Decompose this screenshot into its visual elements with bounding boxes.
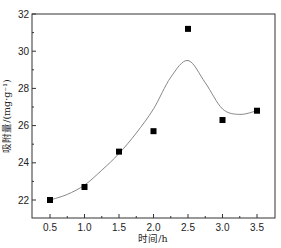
x-tick-label: 2.5 [181,222,195,233]
y-axis-title: 吸附量/(mg·g⁻¹) [1,79,12,153]
y-tick-label: 28 [18,83,30,94]
x-tick-label: 0.5 [43,222,57,233]
y-tick-label: 30 [18,46,30,57]
x-tick-label: 2.0 [147,222,161,233]
chart: 0.51.01.52.02.53.03.5 222426283032 时间/h … [0,0,281,248]
data-point-marker [185,26,191,32]
data-point-marker [47,197,53,203]
y-tick-label: 24 [18,157,30,168]
data-point-marker [116,149,122,155]
y-tick-label: 26 [18,120,30,131]
data-point-marker [254,108,260,114]
data-point-marker [82,184,88,190]
x-tick-label: 1.0 [78,222,92,233]
x-tick-label: 3.0 [216,222,230,233]
chart-background [0,0,281,248]
y-tick-label: 32 [18,9,30,20]
x-tick-label: 1.5 [112,222,126,233]
y-tick-label: 22 [18,195,30,206]
data-point-marker [151,128,157,134]
data-point-marker [220,117,226,123]
x-axis-title: 时间/h [138,233,167,244]
x-tick-label: 3.5 [250,222,264,233]
